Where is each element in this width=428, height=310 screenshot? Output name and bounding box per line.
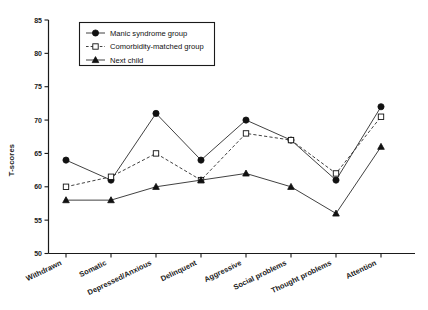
y-axis-title: T-scores	[7, 144, 16, 176]
data-point-1-0	[63, 184, 68, 189]
legend-marker-1	[93, 44, 98, 49]
data-point-1-6	[333, 171, 338, 176]
data-point-2-6	[333, 210, 340, 216]
data-point-1-2	[153, 151, 158, 156]
legend-label-1: Comorbidity-matched group	[110, 42, 204, 51]
data-point-2-4	[243, 170, 250, 176]
data-point-0-6	[333, 177, 339, 183]
data-point-1-4	[243, 131, 248, 136]
series-layer	[63, 104, 385, 216]
data-point-1-5	[288, 137, 293, 142]
data-point-0-4	[243, 117, 249, 123]
data-point-1-7	[378, 114, 383, 119]
data-point-0-0	[63, 157, 69, 163]
x-axis-category-labels: WithdrawnSomaticDepressed/AnxiousDelinqu…	[25, 258, 379, 297]
y-tick-label-70: 70	[34, 117, 42, 124]
series-line-0	[66, 107, 381, 180]
t-scores-line-chart: 5055606570758085 T-scores WithdrawnSomat…	[0, 0, 428, 310]
y-tick-label-75: 75	[34, 83, 42, 90]
legend-label-2: Next child	[110, 56, 143, 65]
data-point-1-1	[108, 174, 113, 179]
x-axis-label-3: Delinquent	[159, 258, 198, 283]
x-axis-label-1: Somatic	[78, 258, 108, 279]
data-point-0-7	[378, 104, 384, 110]
chart-legend: Manic syndrome groupComorbidity-matched …	[80, 23, 215, 66]
chart-container: 5055606570758085 T-scores WithdrawnSomat…	[0, 0, 428, 310]
y-tick-label-50: 50	[34, 250, 42, 257]
y-axis-ticks: 5055606570758085	[34, 17, 48, 258]
data-point-0-2	[153, 110, 159, 116]
x-axis-label-0: Withdrawn	[25, 258, 64, 283]
legend-marker-0	[92, 30, 98, 36]
x-axis-ticks	[66, 254, 381, 258]
y-tick-label-80: 80	[34, 50, 42, 57]
y-tick-label-65: 65	[34, 150, 42, 157]
y-tick-label-85: 85	[34, 17, 42, 24]
legend-label-0: Manic syndrome group	[110, 29, 187, 38]
data-point-0-3	[198, 157, 204, 163]
y-tick-label-60: 60	[34, 183, 42, 190]
x-axis-label-7: Attention	[344, 258, 378, 281]
y-tick-label-55: 55	[34, 217, 42, 224]
data-point-2-7	[378, 143, 385, 149]
